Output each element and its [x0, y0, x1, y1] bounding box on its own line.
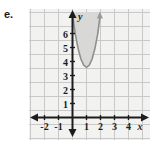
x-tick-label-2: 2: [98, 121, 103, 132]
x-axis-label: x: [137, 121, 143, 132]
y-axis-label: y: [77, 11, 83, 22]
x-tick-label-4: 4: [126, 121, 131, 132]
y-tick-label-4: 4: [63, 57, 68, 68]
x-tick-label-1: 1: [84, 121, 89, 132]
x-tick-label-neg2: -2: [40, 121, 48, 132]
problem-label: e.: [4, 8, 13, 20]
y-tick-label-3: 3: [63, 71, 68, 82]
graph-svg: 6 5 4 3 2 1 -2 -1 1 2 3 4 y x: [29, 9, 150, 140]
y-tick-label-1: 1: [63, 99, 68, 110]
x-tick-label-neg1: -1: [54, 121, 62, 132]
y-tick-label-5: 5: [63, 43, 68, 54]
y-tick-label-6: 6: [63, 29, 68, 40]
x-tick-label-3: 3: [112, 121, 117, 132]
y-tick-label-2: 2: [63, 85, 68, 96]
figure-container: e.: [0, 0, 159, 151]
coordinate-plane: 6 5 4 3 2 1 -2 -1 1 2 3 4 y x: [29, 9, 150, 140]
